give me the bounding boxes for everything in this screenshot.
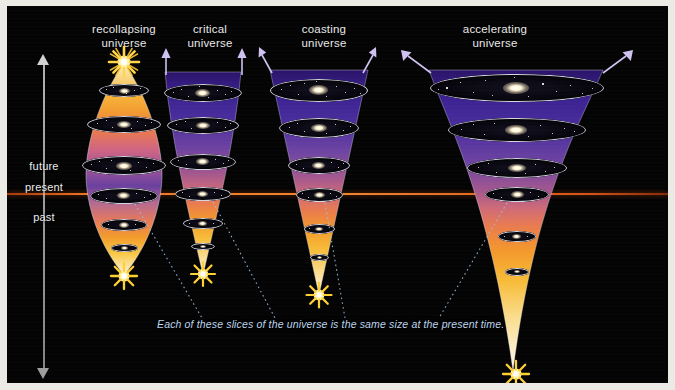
leader-line-coasting: [325, 203, 345, 318]
leader-line-critical: [213, 202, 275, 318]
figure-plate: recollapsing universe critical universe …: [7, 6, 668, 383]
leader-line-accelerating: [439, 203, 507, 318]
cosmology-expansion-figure: recollapsing universe critical universe …: [0, 0, 675, 390]
leader-line-recollapsing: [135, 204, 202, 318]
figure-caption: Each of these slices of the universe is …: [157, 318, 537, 330]
